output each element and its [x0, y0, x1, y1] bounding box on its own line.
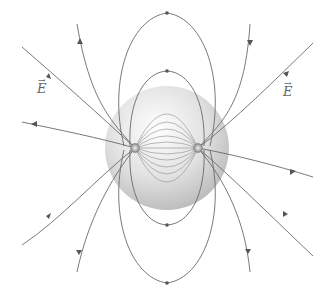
- right-field-label: → E: [283, 85, 293, 98]
- left-charge: [131, 144, 140, 153]
- dipole-field-diagram: [0, 0, 335, 290]
- left-field-label: → E: [37, 82, 47, 95]
- vector-arrow-mark: →: [284, 79, 292, 88]
- vector-arrow-mark: →: [38, 76, 46, 85]
- right-charge: [194, 144, 203, 153]
